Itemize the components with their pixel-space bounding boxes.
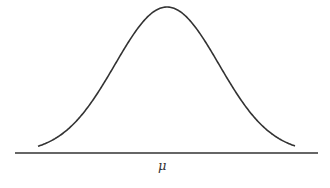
mean-label: μ	[158, 158, 166, 173]
normal-curve	[38, 7, 295, 146]
